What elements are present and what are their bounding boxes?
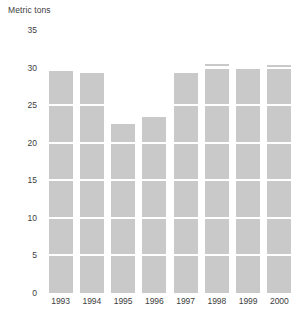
y-axis-tick-label: 5 — [32, 251, 37, 260]
bar[interactable] — [142, 117, 166, 293]
bar-segment-divider — [205, 66, 229, 68]
y-axis-tick-label: 25 — [28, 101, 37, 110]
x-axis-tick-label: 1993 — [51, 296, 70, 306]
bar[interactable] — [205, 64, 229, 293]
bar[interactable] — [236, 68, 260, 293]
bars-layer — [45, 30, 295, 293]
x-axis-tick-label: 1999 — [239, 296, 258, 306]
x-axis-tick-label: 1996 — [145, 296, 164, 306]
y-axis-tick-label: 30 — [28, 63, 37, 72]
bar[interactable] — [174, 73, 198, 293]
y-axis-tick-label: 35 — [28, 26, 37, 35]
x-axis-tick-label: 2000 — [270, 296, 289, 306]
y-axis-title: Metric tons — [8, 5, 51, 15]
plot-area — [45, 30, 295, 293]
y-axis-tick-label: 15 — [28, 176, 37, 185]
x-axis-tick-label: 1998 — [207, 296, 226, 306]
bar[interactable] — [111, 124, 135, 293]
bar[interactable] — [49, 71, 73, 293]
y-axis-tick-label: 0 — [32, 289, 37, 298]
x-axis: 19931994199519961997199819992000 — [45, 296, 295, 312]
x-axis-tick-label: 1994 — [82, 296, 101, 306]
y-axis-tick-label: 20 — [28, 138, 37, 147]
bar-chart: Metric tons 05101520253035 1993199419951… — [0, 0, 300, 324]
x-axis-tick-label: 1995 — [114, 296, 133, 306]
x-axis-tick-label: 1997 — [176, 296, 195, 306]
bar[interactable] — [267, 65, 291, 293]
y-axis-tick-label: 10 — [28, 214, 37, 223]
bar[interactable] — [80, 73, 104, 293]
y-axis: 05101520253035 — [0, 30, 42, 293]
